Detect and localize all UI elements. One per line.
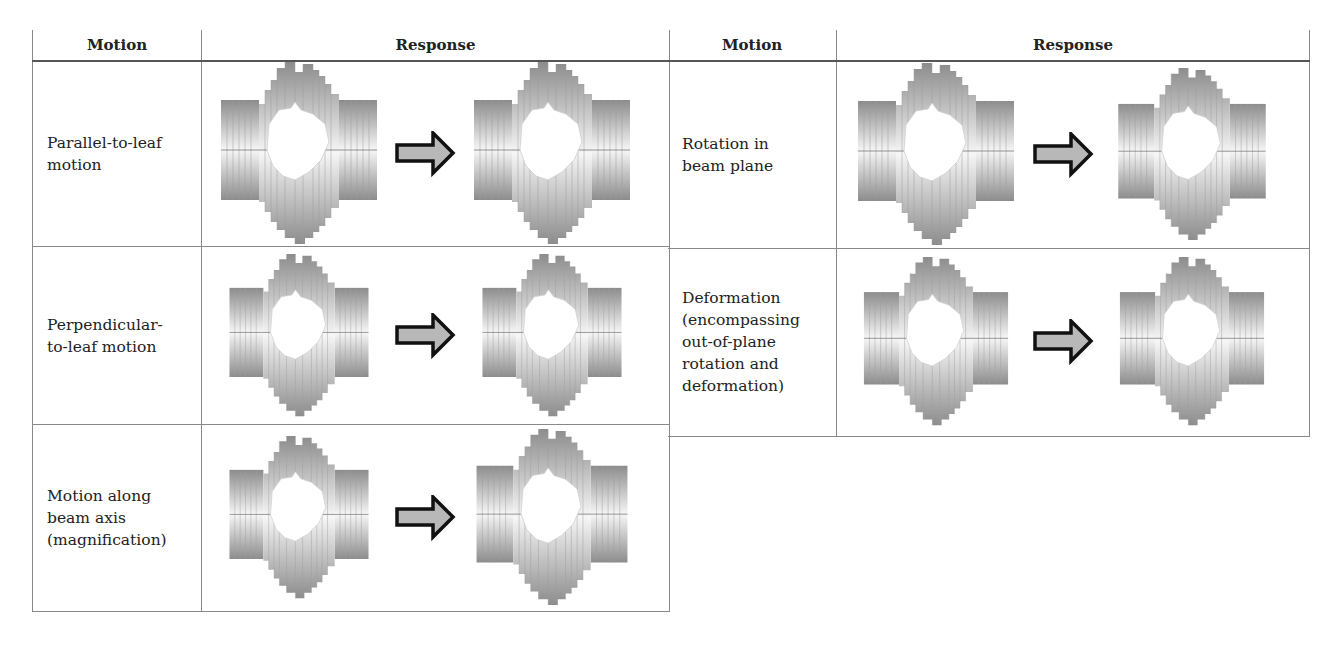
- response-cell: [837, 61, 1310, 248]
- right-arrow-icon: [395, 131, 457, 177]
- left-table: Motion Response Parallel-to-leafmotion P…: [32, 30, 670, 612]
- motion-label: Rotation inbeam plane: [668, 61, 837, 248]
- mlc-aperture-before-figure: [220, 436, 378, 600]
- right-table: Motion Response Rotation inbeam plane De…: [668, 30, 1310, 437]
- mlc-aperture-after-figure: [1113, 257, 1271, 427]
- right-arrow-icon: [1033, 132, 1095, 178]
- response-cell: [202, 425, 670, 612]
- table-row: Parallel-to-leafmotion: [33, 61, 670, 247]
- table-row: Rotation inbeam plane: [668, 61, 1310, 248]
- motion-column-header: Motion: [33, 30, 202, 61]
- response-cell: [202, 247, 670, 425]
- right-arrow-icon: [1033, 319, 1095, 365]
- table-row: Perpendicular-to-leaf motion: [33, 247, 670, 425]
- motion-label: Motion alongbeam axis(magnification): [33, 425, 202, 612]
- table-row: Motion alongbeam axis(magnification): [33, 425, 670, 612]
- mlc-aperture-after-figure: [473, 62, 631, 246]
- motion-column-header: Motion: [668, 30, 837, 61]
- mlc-aperture-before-figure: [857, 63, 1015, 247]
- response-column-header: Response: [202, 30, 670, 61]
- mlc-aperture-before-figure: [220, 62, 378, 246]
- mlc-aperture-before-figure: [857, 257, 1015, 427]
- response-column-header: Response: [837, 30, 1310, 61]
- right-arrow-icon: [395, 313, 457, 359]
- mlc-aperture-after-figure: [1113, 68, 1271, 242]
- table-row: Deformation(encompassingout-of-planerota…: [668, 248, 1310, 436]
- mlc-aperture-before-figure: [220, 254, 378, 418]
- motion-label: Parallel-to-leafmotion: [33, 61, 202, 247]
- response-cell: [837, 248, 1310, 436]
- response-cell: [202, 61, 670, 247]
- motion-label: Deformation(encompassingout-of-planerota…: [668, 248, 837, 436]
- mlc-aperture-after-figure: [473, 254, 631, 418]
- right-arrow-icon: [395, 495, 457, 541]
- mlc-aperture-after-figure: [473, 429, 631, 607]
- motion-label: Perpendicular-to-leaf motion: [33, 247, 202, 425]
